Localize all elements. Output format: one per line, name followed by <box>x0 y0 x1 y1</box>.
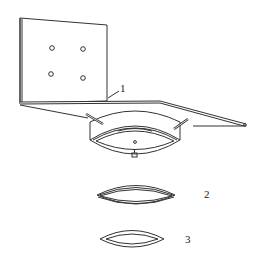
label-1: 1 <box>120 82 126 94</box>
ring-component-2 <box>97 186 175 205</box>
horizontal-plate <box>20 101 246 127</box>
label-2: 2 <box>204 188 210 200</box>
label-3: 3 <box>185 233 191 245</box>
vertical-plate <box>20 18 107 104</box>
leader-line-1 <box>108 91 119 98</box>
technical-diagram: 1 2 3 <box>0 0 264 266</box>
ring-component-3 <box>100 231 164 248</box>
